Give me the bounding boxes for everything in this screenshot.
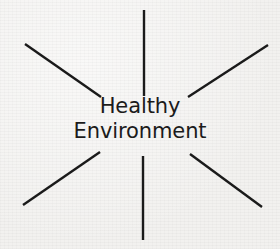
center-label-line-1: Healthy (0, 94, 280, 119)
ray-upper-right (188, 45, 268, 97)
ray-lower-left (23, 152, 100, 205)
diagram-canvas: Healthy Environment (0, 0, 280, 249)
center-label-line-2: Environment (0, 119, 280, 144)
ray-lower-right (190, 154, 262, 207)
ray-upper-left (25, 44, 101, 97)
center-label: Healthy Environment (0, 94, 280, 144)
